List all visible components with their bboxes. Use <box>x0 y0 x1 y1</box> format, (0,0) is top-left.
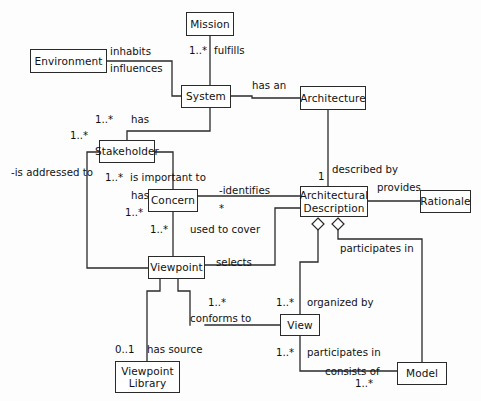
edge-label-used-to-cover: used to cover <box>190 224 260 235</box>
node-concern-label: Concern <box>151 194 195 206</box>
node-environment-label: Environment <box>34 55 102 67</box>
edge-label-provides: provides <box>377 182 421 193</box>
multiplicity-consists-of: 1..* <box>355 378 373 389</box>
edge-label-has-stakeholder: has <box>131 114 149 125</box>
node-environment[interactable]: Environment <box>30 49 107 73</box>
node-viewpoint-label: Viewpoint <box>150 261 203 273</box>
node-mission-label: Mission <box>190 18 230 30</box>
node-architectural-description[interactable]: Architectural Description <box>300 186 368 217</box>
edge-label-inhabits: inhabits <box>110 46 151 57</box>
edge-label-consists-of: consists of <box>325 366 380 377</box>
edge-viewpoint-down-conforms <box>178 279 190 325</box>
uml-class-diagram: Mission Environment System Architecture … <box>0 0 481 401</box>
edge-label-organized-by: organized by <box>307 297 374 308</box>
multiplicity-organized-by: 1..* <box>276 297 294 308</box>
edge-label-identifies: -identifies <box>219 185 270 196</box>
node-architecture[interactable]: Architecture <box>300 86 366 110</box>
multiplicity-conforms-to: 1..* <box>208 297 226 308</box>
edge-system-architecture <box>231 96 300 98</box>
multiplicity-described-by: 1 <box>318 171 325 182</box>
node-model-label: Model <box>406 367 438 379</box>
multiplicity-stakeholder-left: 1..* <box>70 130 88 141</box>
node-rationale[interactable]: Rationale <box>420 190 471 213</box>
edge-label-described-by: described by <box>332 164 398 175</box>
aggregation-diamond-model <box>332 218 344 230</box>
node-system-label: System <box>186 90 226 102</box>
node-rationale-label: Rationale <box>420 195 470 207</box>
edge-label-influences: influences <box>110 63 163 74</box>
node-stakeholder[interactable]: Stakeholder <box>99 140 155 163</box>
node-architecture-label: Architecture <box>300 92 365 104</box>
multiplicity-has-source: 0..1 <box>115 344 135 355</box>
multiplicity-participates-in-v: 1..* <box>276 347 294 358</box>
multiplicity-mission: 1..* <box>189 45 207 56</box>
node-viewpoint[interactable]: Viewpoint <box>148 256 205 279</box>
edge-label-is-important-to: is important to <box>130 172 206 183</box>
node-system[interactable]: System <box>181 85 231 108</box>
node-stakeholder-label: Stakeholder <box>95 145 159 157</box>
edge-label-fulfills: fulfills <box>214 45 245 56</box>
edge-label-is-addressed-to: -is addressed to <box>11 167 93 178</box>
multiplicity-is-important-to: 1..* <box>105 172 123 183</box>
edge-label-selects: selects <box>216 257 252 268</box>
node-concern[interactable]: Concern <box>148 189 198 212</box>
multiplicity-has-concern: 1..* <box>125 207 143 218</box>
node-architectural-description-label: Architectural Description <box>300 189 369 214</box>
edge-label-participates-in-v: participates in <box>307 347 381 358</box>
edge-label-participates-in-ad: participates in <box>340 243 414 254</box>
edge-label-has-an: has an <box>252 80 286 91</box>
node-viewpoint-library-label: Viewpoint Library <box>121 365 174 390</box>
edge-label-has-source: has source <box>147 344 203 355</box>
multiplicity-identifies: * <box>219 203 224 214</box>
node-mission[interactable]: Mission <box>186 12 234 36</box>
multiplicity-system-stakeholder: 1..* <box>95 114 113 125</box>
node-view[interactable]: View <box>280 314 320 336</box>
node-view-label: View <box>287 319 312 331</box>
edge-label-has-concern: has <box>131 190 149 201</box>
multiplicity-used-to-cover: 1..* <box>150 224 168 235</box>
node-model[interactable]: Model <box>397 362 447 385</box>
aggregation-diamond-view <box>312 218 324 230</box>
edge-label-conforms-to: conforms to <box>190 313 251 324</box>
node-viewpoint-library[interactable]: Viewpoint Library <box>115 361 180 393</box>
